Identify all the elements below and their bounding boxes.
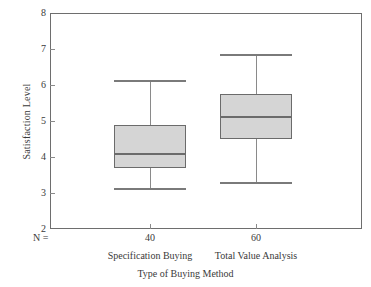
y-tick-label: 3 [22, 188, 46, 198]
category-label: Total Value Analysis [191, 250, 321, 261]
median-line [114, 153, 186, 155]
whisker-upper [150, 80, 151, 125]
whisker-lower [150, 168, 151, 188]
y-tick-label: 4 [22, 152, 46, 162]
boxplot-chart: Satisfaction Level 2345678 N = 4060 Spec… [0, 0, 371, 287]
n-value: 40 [120, 232, 180, 243]
y-tick-label: 8 [22, 8, 46, 18]
whisker-lower [256, 139, 257, 182]
y-tick-mark [50, 157, 55, 158]
n-value: 60 [226, 232, 286, 243]
y-tick-label: 6 [22, 80, 46, 90]
x-axis-title: Type of Buying Method [0, 268, 371, 279]
x-tick-mark [150, 224, 151, 229]
y-tick-mark [50, 49, 55, 50]
median-line [220, 116, 292, 118]
whisker-cap-upper [220, 54, 292, 56]
whisker-cap-lower [220, 182, 292, 184]
plot-frame [50, 13, 362, 229]
whisker-cap-upper [114, 80, 186, 82]
y-tick-mark [50, 85, 55, 86]
whisker-cap-lower [114, 188, 186, 190]
y-tick-label: 7 [22, 44, 46, 54]
whisker-upper [256, 54, 257, 94]
n-row-label: N = [33, 232, 48, 243]
box-rect [114, 125, 186, 168]
x-tick-mark [256, 224, 257, 229]
y-tick-mark [50, 193, 55, 194]
y-tick-mark [50, 121, 55, 122]
y-tick-label: 5 [22, 116, 46, 126]
